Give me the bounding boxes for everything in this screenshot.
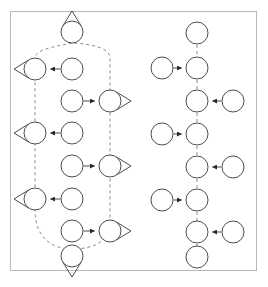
node-circle[interactable] bbox=[186, 246, 208, 268]
node-circle[interactable] bbox=[61, 245, 83, 267]
node-circle[interactable] bbox=[186, 123, 208, 145]
node-circle[interactable] bbox=[99, 90, 121, 112]
graph-node[interactable] bbox=[61, 21, 83, 43]
node-circle[interactable] bbox=[151, 57, 173, 79]
node-circle[interactable] bbox=[186, 90, 208, 112]
node-circle[interactable] bbox=[186, 221, 208, 243]
node-circle[interactable] bbox=[61, 155, 83, 177]
graph-node[interactable] bbox=[186, 90, 208, 112]
graph-node[interactable] bbox=[99, 155, 121, 177]
graph-node[interactable] bbox=[186, 189, 208, 211]
node-circle[interactable] bbox=[24, 58, 46, 80]
graph-node[interactable] bbox=[186, 156, 208, 178]
node-circle[interactable] bbox=[24, 188, 46, 210]
node-circle[interactable] bbox=[222, 156, 244, 178]
node-circle[interactable] bbox=[61, 188, 83, 210]
graph-node[interactable] bbox=[186, 57, 208, 79]
node-circle[interactable] bbox=[186, 57, 208, 79]
node-circle[interactable] bbox=[186, 22, 208, 44]
graph-node[interactable] bbox=[61, 122, 83, 144]
graph-node[interactable] bbox=[61, 245, 83, 267]
graph-node[interactable] bbox=[61, 90, 83, 112]
graph-node[interactable] bbox=[24, 122, 46, 144]
node-circle[interactable] bbox=[151, 189, 173, 211]
graph-node[interactable] bbox=[61, 58, 83, 80]
node-circle[interactable] bbox=[61, 21, 83, 43]
node-circle[interactable] bbox=[24, 122, 46, 144]
node-circle[interactable] bbox=[61, 122, 83, 144]
graph-diagram bbox=[0, 0, 268, 287]
graph-node[interactable] bbox=[222, 156, 244, 178]
graph-node[interactable] bbox=[61, 188, 83, 210]
node-circle[interactable] bbox=[99, 220, 121, 242]
graph-node[interactable] bbox=[99, 220, 121, 242]
node-circle[interactable] bbox=[151, 123, 173, 145]
graph-node[interactable] bbox=[222, 90, 244, 112]
graph-node[interactable] bbox=[99, 90, 121, 112]
graph-node[interactable] bbox=[151, 189, 173, 211]
graph-node[interactable] bbox=[186, 246, 208, 268]
graph-node[interactable] bbox=[222, 221, 244, 243]
node-circle[interactable] bbox=[186, 189, 208, 211]
graph-node[interactable] bbox=[61, 155, 83, 177]
graph-node[interactable] bbox=[186, 22, 208, 44]
graph-node[interactable] bbox=[24, 58, 46, 80]
graph-node[interactable] bbox=[186, 123, 208, 145]
node-circle[interactable] bbox=[61, 220, 83, 242]
node-circle[interactable] bbox=[99, 155, 121, 177]
diagram-canvas bbox=[0, 0, 268, 287]
node-circle[interactable] bbox=[222, 221, 244, 243]
node-circle[interactable] bbox=[61, 90, 83, 112]
graph-node[interactable] bbox=[24, 188, 46, 210]
graph-node[interactable] bbox=[151, 57, 173, 79]
graph-node[interactable] bbox=[151, 123, 173, 145]
graph-node[interactable] bbox=[61, 220, 83, 242]
node-circle[interactable] bbox=[222, 90, 244, 112]
graph-node[interactable] bbox=[186, 221, 208, 243]
node-circle[interactable] bbox=[186, 156, 208, 178]
node-circle[interactable] bbox=[61, 58, 83, 80]
